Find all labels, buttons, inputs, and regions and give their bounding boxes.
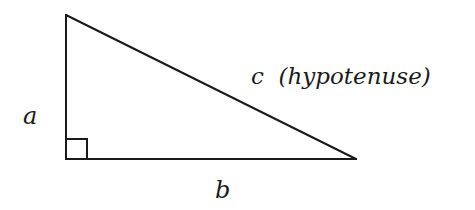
side-a-label: a [23, 104, 37, 128]
hypotenuse-label: c (hypotenuse) [251, 65, 431, 88]
side-b-label: b [215, 178, 230, 202]
right-triangle-diagram [0, 0, 475, 210]
right-angle-marker-icon [66, 139, 87, 159]
